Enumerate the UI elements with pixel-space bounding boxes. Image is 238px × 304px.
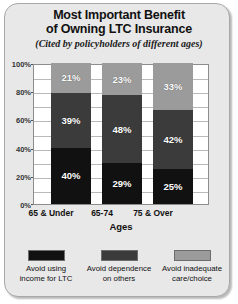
legend-item-avoid-dependence[interactable]: Avoid dependence on others: [83, 250, 155, 283]
plot-area: 21% 39% 40% 23% 48% 29% 33% 42% 25%: [33, 64, 209, 205]
bar-65-and-under[interactable]: 21% 39% 40%: [51, 63, 91, 204]
bar-segment-middle: 39%: [51, 93, 91, 148]
bar-75-and-over[interactable]: 33% 42% 25%: [153, 63, 193, 204]
bar-segment-top: 33%: [153, 63, 193, 110]
y-tick-label-80: 80%: [1, 88, 31, 97]
legend-label-line-2: income for LTC: [10, 274, 82, 284]
legend-label-line-1: Avoid dependence: [83, 264, 155, 274]
y-tick-label-20: 20%: [1, 172, 31, 181]
bar-65-74[interactable]: 23% 48% 29%: [102, 63, 142, 204]
bar-segment-bottom: 25%: [153, 169, 193, 204]
legend-swatch-icon: [28, 250, 65, 261]
y-axis: 100% 80% 60% 40% 20% 0%: [0, 64, 31, 205]
y-tick-label-40: 40%: [1, 144, 31, 153]
x-axis-title: Ages: [33, 221, 209, 232]
legend-label-line-2: care/choice: [156, 274, 228, 284]
legend-swatch-icon: [174, 250, 211, 261]
bar-segment-top: 23%: [102, 63, 142, 95]
y-tick-label-100: 100%: [1, 60, 31, 69]
bar-segment-middle: 48%: [102, 95, 142, 163]
bar-segment-middle: 42%: [153, 110, 193, 169]
legend-label-line-1: Avoid using: [10, 264, 82, 274]
chart-legend: Avoid using income for LTC Avoid depende…: [10, 250, 228, 283]
legend-label-line-2: on others: [83, 274, 155, 284]
legend-label-line-1: Avoid inadequate: [156, 264, 228, 274]
legend-item-avoid-inadequate-care[interactable]: Avoid inadequate care/choice: [156, 250, 228, 283]
bar-segment-bottom: 29%: [102, 163, 142, 204]
category-label-75-and-over: 75 & Over: [118, 208, 188, 218]
legend-item-avoid-using-income[interactable]: Avoid using income for LTC: [10, 250, 82, 283]
bar-segment-bottom: 40%: [51, 148, 91, 204]
legend-swatch-icon: [101, 250, 138, 261]
y-tick-label-60: 60%: [1, 116, 31, 125]
bar-segment-top: 21%: [51, 63, 91, 93]
